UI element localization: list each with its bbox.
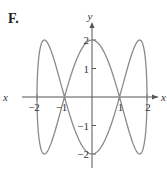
y-axis-arrow-icon: [90, 22, 95, 28]
x-tick-label: −2: [28, 101, 40, 113]
axes: [22, 22, 158, 168]
y-axis-label: y: [87, 10, 93, 22]
x-tick-label: 2: [145, 101, 151, 113]
y-tick-label: −1: [77, 120, 89, 132]
parametric-curve-chart: −2−112−2−112xxy: [0, 0, 167, 170]
x-axis-label: x: [2, 91, 8, 103]
x-tick-label: −1: [56, 101, 68, 113]
y-tick-label: 1: [84, 63, 90, 75]
y-tick-label: 2: [84, 34, 90, 46]
y-tick-label: −2: [77, 148, 89, 160]
x-axis-label-right: x: [160, 91, 166, 103]
x-tick-label: 1: [118, 101, 124, 113]
x-axis-arrow-icon: [152, 95, 158, 100]
tick-labels: −2−112−2−112xxy: [2, 10, 166, 160]
